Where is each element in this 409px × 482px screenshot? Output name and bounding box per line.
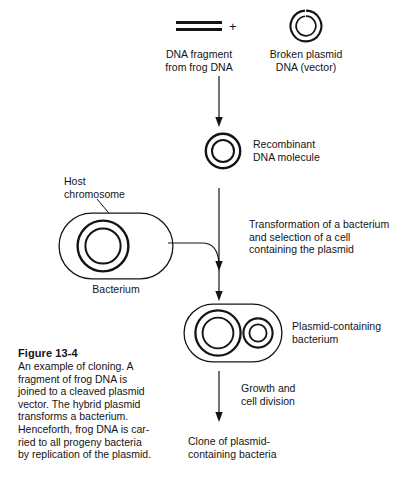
arrow-elbow-icon bbox=[168, 238, 226, 282]
figure-caption-title: Figure 13-4 bbox=[18, 346, 170, 360]
growth-step-label: Growth and cell division bbox=[241, 382, 361, 407]
clone-result-label: Clone of plasmid- containing bacteria bbox=[188, 435, 338, 460]
transformation-step-label: Transformation of a bacterium and select… bbox=[249, 218, 409, 256]
figure-caption-body: An example of cloning. A fragment of fro… bbox=[18, 360, 170, 461]
dna-strand-bottom bbox=[176, 28, 222, 31]
figure-caption: Figure 13-4 An example of cloning. A fra… bbox=[18, 346, 170, 461]
broken-plasmid-label: Broken plasmid DNA (vector) bbox=[254, 48, 358, 73]
arrow-down-icon bbox=[210, 76, 228, 128]
cloning-figure: + DNA fragment from frog DNA Broken plas… bbox=[0, 0, 409, 482]
plasmid-containing-bacterium-label: Plasmid-containing bacterium bbox=[292, 320, 407, 345]
dna-strand-top bbox=[176, 21, 222, 24]
dna-fragment-icon bbox=[176, 21, 222, 33]
recombinant-dna-ring-icon bbox=[203, 131, 243, 171]
arrow-down-icon bbox=[210, 371, 228, 423]
host-chromosome-label: Host chromosome bbox=[64, 175, 154, 200]
plus-operator: + bbox=[229, 20, 237, 33]
recombinant-dna-label: Recombinant DNA molecule bbox=[253, 138, 373, 163]
bacterium-label: Bacterium bbox=[76, 283, 156, 296]
broken-plasmid-icon bbox=[288, 8, 324, 44]
plasmid-containing-bacterium-icon bbox=[183, 303, 283, 363]
bacterium-cell-icon bbox=[58, 212, 174, 280]
dna-fragment-label: DNA fragment from frog DNA bbox=[150, 48, 248, 73]
